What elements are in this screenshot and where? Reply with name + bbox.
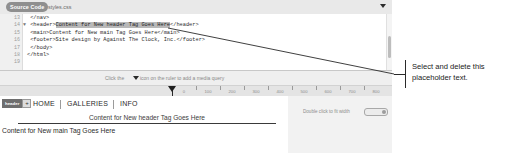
- ruler-tick-label: 300: [253, 89, 260, 94]
- tab-source-code[interactable]: Source Code: [6, 2, 48, 12]
- width-slider-pill[interactable]: [364, 108, 388, 116]
- line-number: 17: [0, 45, 22, 52]
- nav-link-home[interactable]: HOME: [33, 99, 55, 109]
- media-query-hint-text-before: Click the: [105, 75, 124, 81]
- header-tag-label: header: [2, 99, 22, 108]
- add-element-button[interactable]: +: [22, 99, 31, 108]
- code-text[interactable]: </html>: [27, 52, 49, 58]
- main-placeholder-text[interactable]: Content for New main Tag Goes Here: [2, 126, 115, 136]
- ruler-tick-label: 700: [349, 89, 356, 94]
- preview-navigation-bar: header + HOMEGALLERIESINFO: [0, 98, 288, 111]
- code-text[interactable]: </header>: [170, 22, 199, 28]
- preview-right-gutter: [288, 96, 392, 153]
- ruler-tick: [196, 86, 197, 90]
- line-number: 16: [0, 37, 22, 44]
- ruler-tick: [268, 86, 269, 90]
- ruler-tick-label: 600: [325, 89, 332, 94]
- code-scrollbar-thumb[interactable]: [388, 36, 391, 58]
- ruler-tick: [220, 86, 221, 90]
- ruler-tick-label: 500: [301, 89, 308, 94]
- code-line[interactable]: 14▼ <header>Content for New header Tag G…: [0, 22, 392, 29]
- ruler-tick: [244, 86, 245, 90]
- code-text[interactable]: <header>: [27, 22, 56, 28]
- ruler-tick-label: 100: [205, 89, 212, 94]
- code-line[interactable]: 15 <main>Content for New main Tag Goes H…: [0, 30, 392, 37]
- live-preview-pane[interactable]: header + HOMEGALLERIESINFO Content for N…: [0, 96, 392, 153]
- triangle-down-icon: [133, 76, 139, 80]
- ruler-tick-label: 200: [229, 89, 236, 94]
- callout-text: Select and delete this placeholder text.: [412, 62, 506, 83]
- code-text[interactable]: <footer>Site design by Against The Clock…: [27, 37, 205, 43]
- code-line[interactable]: 19: [0, 59, 392, 66]
- preview-page: header + HOMEGALLERIESINFO Content for N…: [0, 96, 288, 153]
- code-line[interactable]: 18</html>: [0, 52, 392, 59]
- ruler-tick: [364, 86, 365, 90]
- line-number: 18: [0, 52, 22, 59]
- media-query-hint-strip: Click the icon on the ruler to add a med…: [0, 71, 392, 85]
- code-line[interactable]: 16 <footer>Site design by Against The Cl…: [0, 37, 392, 44]
- callout-bracket-arm: [394, 74, 406, 75]
- ruler-tick: [340, 86, 341, 90]
- ruler-tick-label: 0: [183, 89, 185, 94]
- code-line-list[interactable]: 13 </nav>14▼ <header>Content for New hea…: [0, 15, 392, 67]
- chevron-down-icon[interactable]: [380, 4, 386, 8]
- ruler-tick-label: 800: [373, 89, 380, 94]
- nav-separator: [60, 100, 61, 109]
- header-element-box[interactable]: Content for New header Tag Goes Here: [18, 112, 276, 124]
- line-number: 13: [0, 15, 22, 22]
- line-number: 14: [0, 22, 22, 29]
- nav-separator: [113, 100, 114, 109]
- code-text[interactable]: </nav>: [27, 15, 49, 21]
- selected-code-text[interactable]: Content for New header Tag Goes Here: [56, 22, 170, 28]
- nav-link-galleries[interactable]: GALLERIES: [67, 99, 108, 109]
- code-text[interactable]: </body>: [27, 45, 52, 51]
- code-editor-window: Source Code styles.css 13 </nav>14▼ <hea…: [0, 0, 392, 153]
- line-number: 15: [0, 30, 22, 37]
- ruler-tick: [292, 86, 293, 90]
- ruler-tick: [316, 86, 317, 90]
- line-number: 19: [0, 59, 22, 66]
- nav-link-info[interactable]: INFO: [120, 99, 138, 109]
- ruler-tick-label: 400: [277, 89, 284, 94]
- media-query-hint-text-after: icon on the ruler to add a media query: [140, 75, 224, 81]
- code-line[interactable]: 17 </body>: [0, 45, 392, 52]
- code-line[interactable]: 13 </nav>: [0, 15, 392, 22]
- code-text[interactable]: <main>Content for New main Tag Goes Here…: [27, 30, 180, 36]
- annotation-callout: Select and delete this placeholder text.: [392, 0, 507, 153]
- tab-styles-css[interactable]: styles.css: [44, 2, 75, 12]
- header-tag-badge[interactable]: header +: [2, 99, 31, 108]
- header-placeholder-text[interactable]: Content for New header Tag Goes Here: [18, 113, 276, 122]
- media-query-hint-text: Click the icon on the ruler to add a med…: [105, 75, 224, 81]
- editor-tab-bar: Source Code styles.css: [0, 0, 392, 15]
- media-query-marker-icon[interactable]: [168, 86, 176, 92]
- fit-width-hint-text: Double click to fit width: [303, 109, 350, 114]
- source-code-pane[interactable]: 13 </nav>14▼ <header>Content for New hea…: [0, 14, 392, 71]
